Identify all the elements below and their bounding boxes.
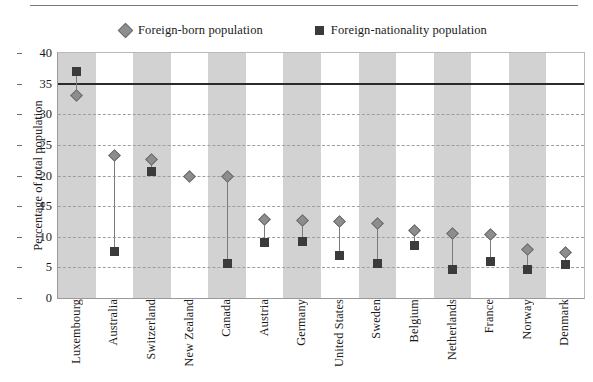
data-point-group: [58, 53, 96, 298]
y-tick-mark-15: [17, 206, 22, 207]
chart-legend: Foreign-born population Foreign-national…: [120, 20, 540, 40]
marker-foreign-nationality: [448, 265, 457, 274]
y-tick-mark-20: [17, 176, 22, 177]
marker-foreign-nationality: [373, 259, 382, 268]
x-axis-label-canada: Canada: [219, 299, 234, 337]
y-tick-label-5: 5: [22, 258, 52, 276]
marker-foreign-born: [484, 228, 497, 241]
marker-foreign-nationality: [335, 251, 344, 260]
marker-foreign-born: [258, 213, 271, 226]
y-tick-mark-40: [17, 53, 22, 54]
y-tick-label-0: 0: [22, 289, 52, 307]
data-point-group: [96, 53, 134, 298]
data-point-group: [246, 53, 284, 298]
chart-figure: Foreign-born population Foreign-national…: [0, 0, 593, 382]
marker-foreign-nationality: [523, 265, 532, 274]
data-point-group: [509, 53, 547, 298]
data-point-group: [359, 53, 397, 298]
x-axis-label-united-states: United States: [332, 299, 347, 367]
marker-foreign-born: [371, 217, 384, 230]
x-axis-label-new-zealand: New Zealand: [182, 299, 197, 367]
marker-foreign-nationality: [561, 260, 570, 269]
data-point-group: [434, 53, 472, 298]
marker-foreign-nationality: [147, 167, 156, 176]
marker-foreign-born: [333, 215, 346, 228]
marker-foreign-nationality: [298, 237, 307, 246]
data-point-group: [208, 53, 246, 298]
connector-stem: [114, 156, 115, 252]
x-axis-label-luxembourg: Luxembourg: [69, 299, 84, 364]
x-axis-label-germany: Germany: [294, 299, 309, 346]
data-point-group: [171, 53, 209, 298]
data-point-group: [396, 53, 434, 298]
marker-foreign-born: [521, 243, 534, 256]
marker-foreign-born: [146, 153, 159, 166]
marker-foreign-nationality: [410, 241, 419, 250]
data-point-group: [133, 53, 171, 298]
x-axis-label-belgium: Belgium: [407, 299, 422, 342]
y-axis-ticks: 0510152025303540: [22, 44, 52, 307]
marker-foreign-born: [221, 170, 234, 183]
x-axis-label-austria: Austria: [257, 299, 272, 336]
x-axis-label-switzerland: Switzerland: [144, 299, 159, 359]
x-axis-label-norway: Norway: [520, 299, 535, 339]
y-tick-label-20: 20: [22, 167, 52, 185]
y-tick-label-35: 35: [22, 75, 52, 93]
marker-foreign-nationality: [223, 259, 232, 268]
square-marker-icon: [315, 26, 324, 35]
y-tick-label-10: 10: [22, 228, 52, 246]
x-axis-label-denmark: Denmark: [557, 299, 572, 346]
marker-foreign-born: [296, 214, 309, 227]
marker-foreign-nationality: [486, 257, 495, 266]
marker-foreign-born: [183, 170, 196, 183]
data-point-group: [471, 53, 509, 298]
y-tick-label-30: 30: [22, 105, 52, 123]
marker-foreign-born: [409, 224, 422, 237]
top-divider-rule: [30, 5, 578, 6]
plot-area: 0510152025303540: [57, 52, 585, 299]
y-tick-mark-0: [17, 298, 22, 299]
data-series-layer: [58, 53, 584, 298]
marker-foreign-nationality: [260, 238, 269, 247]
data-point-group: [546, 53, 584, 298]
legend-entry-foreign-nationality: Foreign-nationality population: [315, 24, 487, 37]
x-axis-label-netherlands: Netherlands: [445, 299, 460, 360]
y-tick-label-15: 15: [22, 197, 52, 215]
x-axis-label-france: France: [482, 299, 497, 333]
marker-foreign-born: [70, 90, 83, 103]
marker-foreign-nationality: [110, 247, 119, 256]
marker-foreign-born: [108, 150, 121, 163]
x-axis-labels: LuxembourgAustraliaSwitzerlandNew Zealan…: [57, 299, 583, 382]
legend-entry-foreign-born: Foreign-born population: [120, 24, 263, 37]
y-tick-mark-5: [17, 267, 22, 268]
y-tick-mark-30: [17, 114, 22, 115]
y-tick-mark-10: [17, 237, 22, 238]
data-point-group: [283, 53, 321, 298]
marker-foreign-born: [446, 227, 459, 240]
y-tick-mark-25: [17, 145, 22, 146]
x-axis-label-sweden: Sweden: [369, 299, 384, 339]
x-axis-label-australia: Australia: [106, 299, 121, 345]
diamond-marker-icon: [118, 22, 134, 38]
marker-foreign-nationality: [72, 67, 81, 76]
connector-stem: [227, 177, 228, 264]
y-tick-mark-35: [17, 84, 22, 85]
legend-label-foreign-born: Foreign-born population: [138, 24, 263, 37]
data-point-group: [321, 53, 359, 298]
y-tick-label-40: 40: [22, 44, 52, 62]
legend-label-foreign-nationality: Foreign-nationality population: [331, 24, 487, 37]
y-tick-label-25: 25: [22, 136, 52, 154]
marker-foreign-born: [559, 246, 572, 259]
